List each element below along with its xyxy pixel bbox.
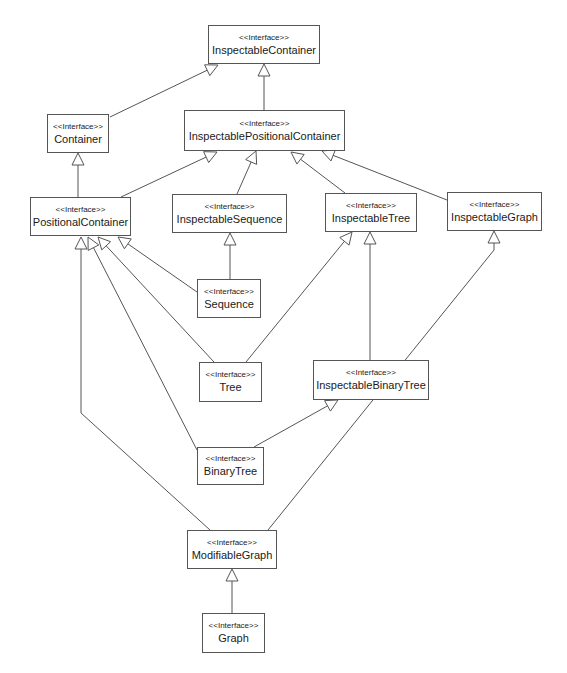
interface-box-inspectable-sequence: <<Interface>>InspectableSequence — [172, 194, 287, 233]
interface-box-inspectable-container: <<Interface>>InspectableContainer — [208, 25, 320, 64]
inheritance-arrow-icon — [246, 151, 257, 164]
interface-box-inspectable-binary-tree: <<Interface>>InspectableBinaryTree — [313, 360, 429, 400]
interface-box-tree: <<Interface>>Tree — [199, 362, 262, 402]
stereotype-label: <<Interface>> — [204, 287, 254, 297]
interface-name: Sequence — [204, 297, 254, 311]
inheritance-arrow-icon — [75, 237, 87, 249]
uml-diagram: <<Interface>>InspectableContainer<<Inter… — [0, 0, 567, 673]
interface-box-modifiable-graph: <<Interface>>ModifiableGraph — [187, 530, 277, 569]
stereotype-label: <<Interface>> — [56, 205, 106, 215]
interface-box-inspectable-tree: <<Interface>>InspectableTree — [325, 193, 417, 232]
interface-box-positional-container: <<Interface>>PositionalContainer — [30, 197, 131, 236]
interface-name: InspectableContainer — [212, 43, 316, 57]
interface-name: BinaryTree — [204, 464, 257, 478]
interface-box-inspectable-graph: <<Interface>>InspectableGraph — [447, 192, 542, 231]
generalization-edge — [118, 237, 197, 292]
inheritance-arrow-icon — [118, 237, 131, 249]
inheritance-edges — [0, 0, 567, 673]
generalization-edge — [237, 151, 257, 194]
stereotype-label: <<Interface>> — [346, 201, 396, 211]
inheritance-arrow-icon — [226, 569, 238, 581]
inheritance-arrow-icon — [291, 152, 304, 164]
interface-name: InspectableSequence — [177, 212, 283, 226]
stereotype-label: <<Interface>> — [240, 119, 290, 129]
interface-name: PositionalContainer — [33, 215, 128, 229]
generalization-edge — [254, 400, 338, 447]
generalization-edge — [88, 237, 197, 450]
generalization-edge — [224, 233, 236, 279]
interface-box-sequence: <<Interface>>Sequence — [197, 279, 261, 318]
generalization-edge — [75, 237, 210, 530]
stereotype-label: <<Interface>> — [470, 200, 520, 210]
inheritance-arrow-icon — [322, 150, 335, 161]
generalization-edge — [121, 152, 217, 197]
interface-name: Graph — [218, 631, 249, 645]
stereotype-label: <<Interface>> — [209, 621, 259, 631]
generalization-edge — [291, 152, 345, 193]
interface-box-container: <<Interface>>Container — [47, 114, 109, 153]
generalization-edge — [226, 569, 238, 613]
interface-name: ModifiableGraph — [192, 548, 273, 562]
generalization-edge — [258, 64, 270, 110]
inheritance-arrow-icon — [488, 231, 500, 243]
inheritance-arrow-icon — [340, 232, 352, 245]
interface-name: Tree — [219, 380, 241, 394]
interface-name: InspectableGraph — [451, 210, 538, 224]
stereotype-label: <<Interface>> — [206, 370, 256, 380]
stereotype-label: <<Interface>> — [346, 368, 396, 378]
interface-box-graph: <<Interface>>Graph — [202, 613, 265, 653]
interface-name: InspectableTree — [332, 211, 410, 225]
interface-box-inspectable-positional-container: <<Interface>>InspectablePositionalContai… — [184, 110, 345, 151]
inheritance-arrow-icon — [224, 233, 236, 245]
interface-box-binary-tree: <<Interface>>BinaryTree — [197, 447, 264, 485]
inheritance-arrow-icon — [258, 64, 270, 76]
generalization-edge — [364, 232, 376, 360]
stereotype-label: <<Interface>> — [205, 202, 255, 212]
inheritance-arrow-icon — [364, 232, 376, 244]
inheritance-arrow-icon — [72, 153, 84, 165]
generalization-edge — [246, 232, 352, 362]
interface-name: Container — [54, 132, 102, 146]
inheritance-arrow-icon — [204, 152, 217, 163]
stereotype-label: <<Interface>> — [239, 33, 289, 43]
interface-name: InspectableBinaryTree — [316, 378, 426, 392]
inheritance-arrow-icon — [325, 400, 338, 411]
stereotype-label: <<Interface>> — [53, 122, 103, 132]
stereotype-label: <<Interface>> — [206, 454, 256, 464]
stereotype-label: <<Interface>> — [207, 538, 257, 548]
interface-name: InspectablePositionalContainer — [189, 129, 341, 143]
generalization-edge — [72, 153, 84, 197]
